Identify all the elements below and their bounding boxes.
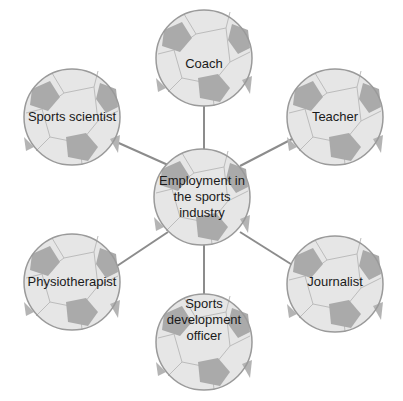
center-text-line-2: the sports (173, 189, 230, 205)
node-text-line-1: Sports (185, 296, 223, 312)
node-text-line-3: officer (186, 328, 221, 344)
node-text: Sports scientist (28, 109, 116, 125)
center-text-line-3: industry (179, 205, 225, 221)
node-label-sports-development-officer: Sports development officer (152, 296, 256, 344)
node-text: Physiotherapist (28, 274, 117, 290)
node-text: Teacher (312, 109, 358, 125)
node-label-physiotherapist: Physiotherapist (12, 274, 132, 290)
node-label-journalist: Journalist (307, 274, 363, 290)
connector-sports-scientist (112, 140, 168, 165)
connector-journalist (240, 232, 294, 266)
connector-physiotherapist (114, 232, 168, 268)
node-text-line-2: development (167, 312, 241, 328)
node-label-coach: Coach (185, 56, 223, 72)
node-text: Coach (185, 56, 223, 72)
center-text-line-1: Employment in (159, 173, 245, 189)
connector-teacher (240, 138, 294, 166)
node-text: Journalist (307, 274, 363, 290)
node-label-teacher: Teacher (312, 109, 358, 125)
node-label-sports-scientist: Sports scientist (12, 109, 132, 125)
center-label: Employment in the sports industry (150, 173, 254, 221)
